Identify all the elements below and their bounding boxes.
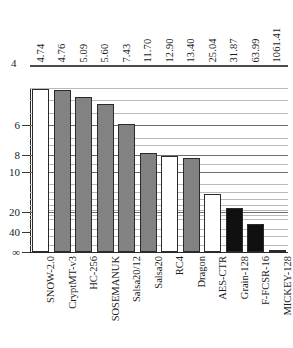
value-label: 1061.41 xyxy=(272,27,283,62)
bar-salsa20 xyxy=(140,153,157,252)
bar-grain-128 xyxy=(226,208,243,252)
value-label-group: 4.744.765.095.607.4311.7012.9013.4025.04… xyxy=(0,0,293,62)
value-label: 63.99 xyxy=(250,38,261,62)
ytick-mark xyxy=(22,125,30,126)
bar-hc-256 xyxy=(75,97,92,252)
category-label: AES-CTR xyxy=(218,256,229,300)
category-label: Grain-128 xyxy=(240,256,251,299)
ytick-mark xyxy=(22,252,30,253)
bar-rc4 xyxy=(161,156,178,252)
value-label: 12.90 xyxy=(164,38,175,62)
category-label: HC-256 xyxy=(89,256,100,290)
ytick-mark xyxy=(22,155,30,156)
category-label: Salsa20 xyxy=(154,256,165,289)
bar-sosemanuk xyxy=(97,104,114,252)
ytick-mark xyxy=(22,172,30,173)
value-label: 31.87 xyxy=(229,38,240,62)
ytick-label: 6 xyxy=(15,120,21,131)
category-label-group: SNOW-2.0CryptMT-v3HC-256SOSEMANUKSalsa20… xyxy=(0,256,293,348)
value-label: 5.09 xyxy=(78,43,89,62)
value-label: 13.40 xyxy=(186,38,197,62)
value-label: 5.60 xyxy=(100,43,111,62)
bar-salsa20-12 xyxy=(118,124,135,252)
category-label: SOSEMANUK xyxy=(111,256,122,321)
value-label: 25.04 xyxy=(207,38,218,62)
ytick-label: 40 xyxy=(9,227,20,238)
bar-cryptmt-v3 xyxy=(54,90,71,252)
x-axis-baseline xyxy=(30,252,288,254)
bar-chart: 4.744.765.095.607.4311.7012.9013.4025.04… xyxy=(0,0,293,348)
bar-dragon xyxy=(183,158,200,252)
value-label: 4.76 xyxy=(57,43,68,62)
bar-group xyxy=(30,88,288,252)
ytick-mark xyxy=(22,212,30,213)
value-label: 4.74 xyxy=(35,43,46,62)
ytick-label: 10 xyxy=(9,167,20,178)
ytick-mark xyxy=(22,232,30,233)
category-label: CryptMT-v3 xyxy=(68,256,79,309)
bar-f-fcsr-16 xyxy=(247,224,264,252)
bar-snow-2-0 xyxy=(32,89,49,252)
bar-aes-ctr xyxy=(204,194,221,252)
value-label: 7.43 xyxy=(121,43,132,62)
category-label: Dragon xyxy=(197,256,208,288)
ytick-label: 20 xyxy=(9,207,20,218)
plot-area xyxy=(30,88,288,252)
category-label: F-FCSR-16 xyxy=(261,256,272,305)
category-label: SNOW-2.0 xyxy=(46,256,57,303)
value-label: 11.70 xyxy=(143,38,154,62)
category-label: MICKEY-128 xyxy=(283,256,293,316)
category-label: Salsa20/12 xyxy=(132,256,143,302)
ytick-label: 8 xyxy=(15,150,21,161)
category-label: RC4 xyxy=(175,256,186,275)
top-axis-rule xyxy=(30,65,288,67)
